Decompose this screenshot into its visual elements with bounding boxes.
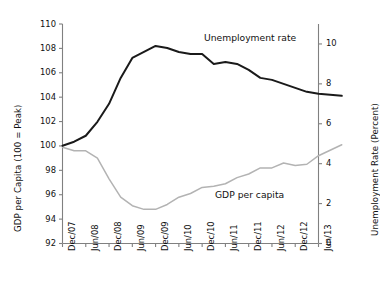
left-tick-label: 94 <box>26 214 56 224</box>
x-tick-label: Dec/10 <box>206 221 216 251</box>
series-line-unemployment-rate <box>63 46 342 146</box>
left-tick-label: 98 <box>26 165 56 175</box>
x-tick-label: Dec/12 <box>299 221 309 251</box>
x-tick-label: Dec/11 <box>253 221 263 251</box>
x-tick-label: Dec/07 <box>67 221 77 251</box>
left-tick-label: 104 <box>26 92 56 102</box>
left-tick-label: 92 <box>26 238 56 248</box>
x-tick-label: Dec/09 <box>160 221 170 251</box>
annotation-gdp-per-capita: GDP per capita <box>215 189 284 200</box>
x-tick-label: Jun/12 <box>276 224 286 251</box>
chart-axes <box>63 24 319 244</box>
x-tick-label: Jun/10 <box>183 224 193 251</box>
x-tick-label: Jun/13 <box>323 224 333 251</box>
left-tick-label: 100 <box>26 140 56 150</box>
left-tick-label: 110 <box>26 19 56 29</box>
x-tick-label: Dec/08 <box>113 221 123 251</box>
right-tick-label: 10 <box>326 38 337 48</box>
right-tick-label: 4 <box>326 158 331 168</box>
left-tick-label: 106 <box>26 67 56 77</box>
left-tick-label: 96 <box>26 189 56 199</box>
right-tick-label: 8 <box>326 78 331 88</box>
annotation-unemployment-rate: Unemployment rate <box>204 32 296 43</box>
right-tick-label: 6 <box>326 118 331 128</box>
left-tick-label: 102 <box>26 116 56 126</box>
left-tick-label: 108 <box>26 43 56 53</box>
x-tick-label: Jun/11 <box>229 224 239 251</box>
right-axis-title: Unemployment Rate (Percent) <box>370 103 380 236</box>
left-axis-title: GDP per Capita (100 = Peak) <box>13 104 23 232</box>
series-line-gdp-per-capita <box>63 145 342 210</box>
x-tick-label: Jun/09 <box>136 224 146 251</box>
x-tick-label: Jun/08 <box>90 224 100 251</box>
right-tick-label: 2 <box>326 198 331 208</box>
